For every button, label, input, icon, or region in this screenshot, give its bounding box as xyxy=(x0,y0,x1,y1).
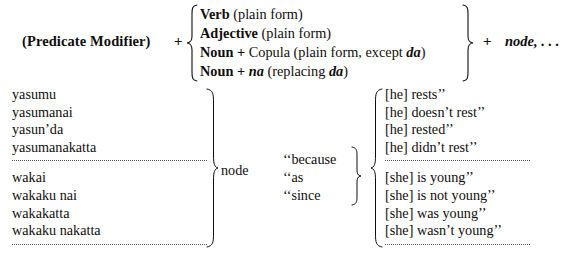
english-column-brace-icon xyxy=(370,88,384,248)
alternative-noun-copula-plus: + xyxy=(237,44,245,60)
conjunction-gloss-column: ‘‘because ‘‘as ‘‘since xyxy=(283,150,336,204)
english-gloss: [he] didn’t rest’’ xyxy=(385,139,555,157)
japanese-form: wakakatta xyxy=(12,205,207,223)
alternative-noun-copula-mid: Copula xyxy=(249,44,290,60)
plus-sign-2: + xyxy=(483,33,492,50)
japanese-form: yasumanakatta xyxy=(12,139,207,157)
plus-sign-1: + xyxy=(174,33,183,50)
alternative-noun-na-particle: na xyxy=(249,63,264,79)
alternative-noun-copula-head: Noun xyxy=(200,44,233,60)
alternative-noun-na-plus: + xyxy=(237,63,245,79)
alternative-verb: Verb (plain form) xyxy=(200,5,425,24)
english-gloss: [he] rested’’ xyxy=(385,121,555,139)
japanese-form: yasun’da xyxy=(12,121,207,139)
english-gloss-column: [he] rests’’ [he] doesn’t rest’’ [he] re… xyxy=(385,86,555,250)
conjunction-gloss: ‘‘as xyxy=(283,168,336,186)
predicate-modifier-term: (Predicate Modifier) xyxy=(22,33,151,50)
group-divider xyxy=(385,244,530,245)
alternative-noun-copula-da: da xyxy=(406,44,420,60)
japanese-form: yasumanai xyxy=(12,104,207,122)
group-divider xyxy=(385,160,530,161)
english-gloss: [she] wasn’t young’’ xyxy=(385,222,555,240)
alternative-noun-na-da: da xyxy=(329,63,343,79)
english-gloss: [he] rests’’ xyxy=(385,86,555,104)
alternative-noun-copula-close: ) xyxy=(421,44,426,60)
node-trailer-term: node, . . . xyxy=(505,33,559,50)
english-gloss: [she] is young’’ xyxy=(385,169,555,187)
english-gloss: [she] is not young’’ xyxy=(385,187,555,205)
conjunction-brace-icon xyxy=(350,146,362,206)
alternatives-open-brace-icon xyxy=(186,4,198,82)
alternative-noun-na-tail: (replacing xyxy=(267,63,325,79)
alternative-noun-copula: Noun + Copula (plain form, except da) xyxy=(200,43,425,62)
alternatives-list: Verb (plain form) Adjective (plain form)… xyxy=(200,5,425,81)
group-divider xyxy=(12,160,207,161)
japanese-form: yasumu xyxy=(12,86,207,104)
conjunction-gloss: ‘‘because xyxy=(283,150,336,168)
japanese-form: wakaku nakatta xyxy=(12,222,207,240)
alternative-adjective-tail: (plain form) xyxy=(262,25,331,41)
node-morpheme-label: node xyxy=(221,162,249,179)
alternative-adjective: Adjective (plain form) xyxy=(200,24,425,43)
alternative-verb-tail: (plain form) xyxy=(233,6,302,22)
japanese-form: wakai xyxy=(12,169,207,187)
alternative-noun-na-close: ) xyxy=(343,63,348,79)
alternative-noun-na: Noun + na (replacing da) xyxy=(200,62,425,81)
conjunction-gloss: ‘‘since xyxy=(283,186,336,204)
rewrite-rule-formula: (Predicate Modifier) + Verb (plain form)… xyxy=(0,0,565,86)
figure-root: (Predicate Modifier) + Verb (plain form)… xyxy=(0,0,565,261)
alternative-noun-na-head: Noun xyxy=(200,63,233,79)
group-divider xyxy=(12,244,207,245)
examples-diagram: yasumu yasumanai yasun’da yasumanakatta … xyxy=(0,86,565,261)
alternatives-close-brace-icon xyxy=(462,4,474,82)
alternative-verb-head: Verb xyxy=(200,6,230,22)
alternative-noun-copula-tail: (plain form, except xyxy=(294,44,403,60)
japanese-form: wakaku nai xyxy=(12,187,207,205)
english-gloss: [he] doesn’t rest’’ xyxy=(385,104,555,122)
japanese-forms-column: yasumu yasumanai yasun’da yasumanakatta … xyxy=(12,86,207,250)
alternative-adjective-head: Adjective xyxy=(200,25,258,41)
english-gloss: [she] was young’’ xyxy=(385,205,555,223)
japanese-column-brace-icon xyxy=(205,88,219,248)
